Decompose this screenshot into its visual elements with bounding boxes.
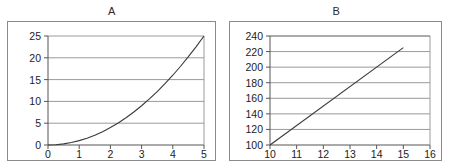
chart-b-ytick-5: 200 — [245, 61, 263, 73]
chart-b-x-tick-labels: 10 11 12 13 14 15 16 — [264, 148, 436, 159]
chart-b-ytick-2: 140 — [245, 108, 263, 120]
chart-a-y-tick-labels: 25 20 15 10 5 0 — [29, 30, 41, 151]
chart-a-x-tick-labels: 0 1 2 3 4 5 — [45, 148, 207, 159]
chart-a-ytick-2: 10 — [29, 95, 41, 107]
panel-a: A — [0, 0, 224, 166]
chart-b-xtick-1: 11 — [291, 148, 302, 159]
chart-b-xtick-4: 14 — [371, 148, 383, 159]
chart-b-xtick-5: 15 — [397, 148, 409, 159]
chart-a-ytick-0: 0 — [35, 139, 41, 151]
chart-b-xtick-6: 16 — [424, 148, 436, 159]
chart-b-y-tick-labels: 240 220 200 180 160 140 120 100 — [245, 30, 263, 151]
chart-a-curve — [48, 36, 204, 145]
chart-a-xtick-4: 4 — [170, 148, 176, 159]
chart-b-ytick-7: 240 — [245, 30, 263, 42]
chart-b-y-axis — [266, 36, 270, 145]
chart-a-ytick-4: 20 — [29, 52, 41, 64]
chart-a-xtick-3: 3 — [139, 148, 145, 159]
panel-b-frame: 240 220 200 180 160 140 120 100 10 11 12… — [229, 21, 442, 161]
chart-b-xtick-3: 13 — [344, 148, 356, 159]
chart-b-ytick-6: 220 — [245, 46, 263, 58]
chart-a-x-axis — [48, 36, 204, 149]
chart-b-x-axis — [270, 36, 430, 149]
chart-b-xtick-2: 12 — [317, 148, 329, 159]
chart-a-xtick-2: 2 — [107, 148, 113, 159]
chart-a-ytick-3: 15 — [29, 74, 41, 86]
chart-b-curve — [270, 48, 403, 145]
panel-a-title: A — [0, 4, 224, 18]
panel-b: B — [224, 0, 449, 166]
chart-b-ytick-4: 180 — [245, 77, 263, 89]
chart-b-ytick-3: 160 — [245, 92, 263, 104]
chart-b-xtick-0: 10 — [264, 148, 276, 159]
chart-a-xtick-1: 1 — [76, 148, 82, 159]
chart-a-xtick-0: 0 — [45, 148, 51, 159]
chart-b-gridlines — [270, 36, 430, 145]
chart-a-gridlines — [48, 36, 204, 145]
chart-a-ytick-1: 5 — [35, 117, 41, 129]
chart-a-ytick-5: 25 — [29, 30, 41, 42]
chart-a-plot: 25 20 15 10 5 0 0 1 2 3 4 5 — [8, 22, 214, 159]
panel-a-frame: 25 20 15 10 5 0 0 1 2 3 4 5 — [7, 21, 216, 161]
chart-b-ytick-0: 100 — [245, 139, 263, 151]
chart-a-y-axis — [44, 36, 48, 145]
chart-a-xtick-5: 5 — [201, 148, 207, 159]
panel-b-title: B — [224, 4, 449, 18]
chart-b-ytick-1: 120 — [245, 123, 263, 135]
figure-root: A — [0, 0, 449, 166]
chart-b-plot: 240 220 200 180 160 140 120 100 10 11 12… — [230, 22, 440, 159]
